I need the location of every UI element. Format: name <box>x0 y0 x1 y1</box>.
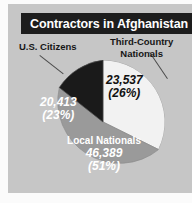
slice-value-third-country-nationals: 23,537 (26%) <box>106 74 143 100</box>
page-margin-left <box>0 0 8 203</box>
slice-value-tcn-percent: (26%) <box>106 87 143 100</box>
slice-value-local-percent: (51%) <box>56 160 152 173</box>
slice-value-local-nationals: Local Nationals 46,389 (51%) <box>56 135 152 173</box>
callout-third-country-line1: Third-Country <box>110 36 173 48</box>
page-margin-bottom <box>0 193 192 203</box>
callout-label-us-citizens: U.S. Citizens <box>19 41 77 52</box>
slice-value-us-citizens: 20,413 (23%) <box>40 96 77 122</box>
callout-label-third-country-nationals: Third-Country Nationals <box>110 36 173 59</box>
callout-third-country-line2: Nationals <box>110 48 173 60</box>
chart-screenshot: Contractors in Afghanistan U.S. Citizens… <box>0 0 192 203</box>
slice-value-us-percent: (23%) <box>40 109 77 122</box>
page-title: Contractors in Afghanistan <box>30 17 188 31</box>
chart-title-bar: Contractors in Afghanistan <box>21 13 192 34</box>
